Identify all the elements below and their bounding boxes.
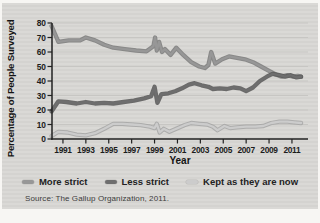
legend-swatch-less-strict-icon bbox=[105, 180, 117, 184]
legend-item-more-strict: More strict bbox=[22, 176, 88, 187]
svg-text:1991: 1991 bbox=[54, 145, 72, 155]
svg-text:2001: 2001 bbox=[169, 145, 187, 155]
legend-swatch-kept-as-now-icon bbox=[186, 180, 198, 184]
chart-panel: 0102030405060708019911993199519971999200… bbox=[2, 3, 318, 209]
svg-text:70: 70 bbox=[37, 33, 46, 43]
svg-text:1995: 1995 bbox=[100, 145, 118, 155]
legend-label-less-strict: Less strict bbox=[122, 176, 170, 187]
svg-text:2009: 2009 bbox=[260, 145, 278, 155]
svg-text:0: 0 bbox=[41, 134, 46, 144]
x-axis-title: Year bbox=[52, 155, 308, 166]
svg-text:30: 30 bbox=[37, 91, 46, 101]
svg-text:1997: 1997 bbox=[123, 145, 141, 155]
chart-legend: More strict Less strict Kept as they are… bbox=[2, 176, 318, 187]
legend-label-kept-as-now: Kept as they are now bbox=[203, 176, 298, 187]
svg-text:1993: 1993 bbox=[77, 145, 95, 155]
svg-text:10: 10 bbox=[37, 120, 46, 130]
svg-text:2007: 2007 bbox=[237, 145, 255, 155]
svg-text:1999: 1999 bbox=[146, 145, 164, 155]
svg-text:80: 80 bbox=[37, 18, 46, 28]
figure-page: 0102030405060708019911993199519971999200… bbox=[0, 0, 320, 223]
svg-text:60: 60 bbox=[37, 47, 46, 57]
svg-text:50: 50 bbox=[37, 62, 46, 72]
legend-label-more-strict: More strict bbox=[39, 176, 88, 187]
svg-text:2005: 2005 bbox=[215, 145, 233, 155]
svg-text:2011: 2011 bbox=[283, 145, 301, 155]
svg-text:40: 40 bbox=[37, 76, 46, 86]
legend-item-less-strict: Less strict bbox=[105, 176, 170, 187]
legend-item-kept-as-now: Kept as they are now bbox=[186, 176, 298, 187]
source-credit: Source: The Gallup Organization, 2011. bbox=[25, 194, 169, 203]
legend-swatch-more-strict-icon bbox=[22, 180, 34, 184]
svg-text:20: 20 bbox=[37, 105, 46, 115]
svg-text:2003: 2003 bbox=[192, 145, 210, 155]
